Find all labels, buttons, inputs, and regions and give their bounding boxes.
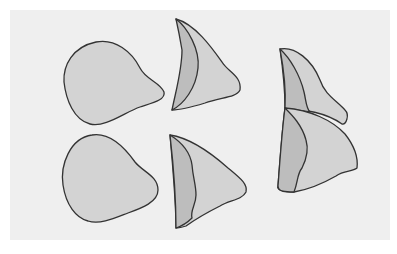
crescent-shape-top <box>172 19 240 110</box>
rounded-blob-top <box>64 41 164 124</box>
rounded-blob-bottom <box>62 135 158 223</box>
shapes-diagram <box>0 0 397 254</box>
crescent-shape-bottom <box>170 135 246 228</box>
